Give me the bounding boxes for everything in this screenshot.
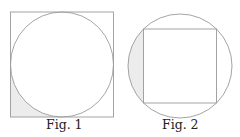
inscribed-square (144, 29, 217, 103)
figure-1 (11, 12, 114, 117)
diagram-canvas (0, 0, 240, 137)
shaded-corner-region (11, 65, 63, 118)
figure-2-caption: Fig. 2 (162, 117, 199, 132)
outer-square (11, 12, 114, 117)
inscribed-circle (11, 12, 114, 117)
figure-2 (128, 14, 232, 118)
shaded-segment (128, 29, 143, 103)
figure-1-caption: Fig. 1 (46, 117, 83, 132)
